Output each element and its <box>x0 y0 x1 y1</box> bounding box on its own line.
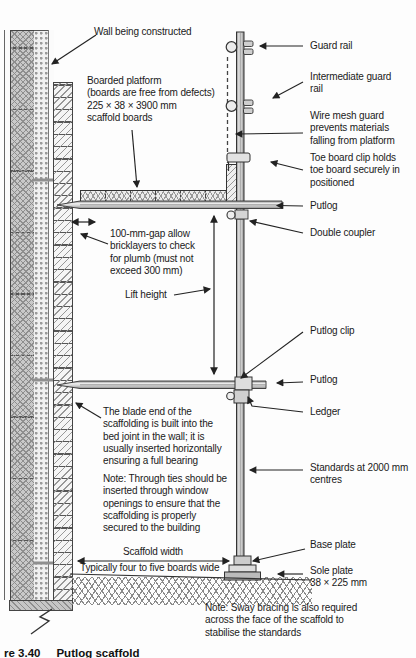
arrow-putlog-lower <box>277 382 303 383</box>
label-toe-board-clip: Toe board clip holds toe board securely … <box>310 152 400 189</box>
wall-brick-leaf <box>53 82 73 602</box>
arrow-putlog-clip <box>241 332 303 378</box>
figure-caption-title: Putlog scaffold <box>56 647 139 658</box>
arrow-intermediate-rail <box>273 82 303 98</box>
putlog-clip-collar <box>235 377 252 390</box>
break-line <box>31 609 52 634</box>
putlog-lower-tube <box>57 381 266 389</box>
intermediate-guard-rail-coupler <box>226 100 253 114</box>
guard-rail-coupler <box>226 41 253 55</box>
ground-hatch <box>72 577 312 605</box>
label-guard-rail: Guard rail <box>310 40 352 52</box>
label-through-ties: Note: Through ties should be inserted th… <box>103 473 227 534</box>
label-putlog-lower: Putlog <box>310 374 337 386</box>
base-plate-shape <box>229 556 256 572</box>
figure-caption: re 3.40Putlog scaffold <box>4 647 140 658</box>
arrow-base-plate <box>253 549 305 561</box>
double-coupler <box>227 210 248 219</box>
wall-blockwork-leaf <box>10 30 36 602</box>
label-intermediate-rail: Intermediate guard rail <box>310 71 391 96</box>
arrow-double-coupler <box>250 221 303 233</box>
arrow-wall <box>52 35 96 64</box>
label-ledger: Ledger <box>310 406 340 418</box>
putlog-scaffold-diagram: Wall being constructed Boarded platform … <box>0 0 416 658</box>
arrow-ledger <box>248 397 303 412</box>
wall-cavity-insulation <box>34 30 48 601</box>
label-gap: 100-mm-gap allow bricklayers to check fo… <box>110 228 195 277</box>
label-wire-mesh: Wire mesh guard prevents materials falli… <box>310 110 395 147</box>
arrow-blade-pointer <box>76 403 101 418</box>
figure-caption-number: re 3.40 <box>4 647 40 658</box>
label-base-plate: Base plate <box>310 539 356 551</box>
label-sole-plate: Sole plate 38 × 225 mm <box>310 565 367 590</box>
label-scaffold-width: Scaffold width <box>123 546 183 558</box>
label-wall: Wall being constructed <box>94 26 192 38</box>
label-double-coupler: Double coupler <box>310 227 375 239</box>
label-putlog-upper: Putlog <box>310 200 337 212</box>
platform-boards <box>80 190 236 202</box>
label-platform: Boarded platform (boards are free from d… <box>87 75 215 124</box>
label-blade: The blade end of the scaffolding is buil… <box>103 406 222 467</box>
wall-footing <box>9 600 73 611</box>
arrow-wire-mesh <box>236 133 303 134</box>
arrow-toe-board-clip <box>271 162 303 170</box>
toe-board <box>226 164 239 202</box>
putlog-upper-tube <box>57 201 282 209</box>
ledger-fitting <box>227 390 249 403</box>
label-standards: Standards at 2000 mm centres <box>310 462 408 487</box>
arrow-putlog-upper <box>277 206 303 207</box>
label-putlog-clip: Putlog clip <box>310 325 355 337</box>
note-sway-bracing: Note: Sway bracing is also required acro… <box>205 602 357 639</box>
arrow-lift-height-pointer <box>174 289 210 295</box>
standard-tube <box>237 32 245 560</box>
label-boards-wide: Typically four to five boards wide <box>80 562 219 574</box>
label-lift-height: Lift height <box>125 289 167 301</box>
arrow-gap-pointer <box>81 234 108 244</box>
arrow-platform <box>132 130 137 187</box>
